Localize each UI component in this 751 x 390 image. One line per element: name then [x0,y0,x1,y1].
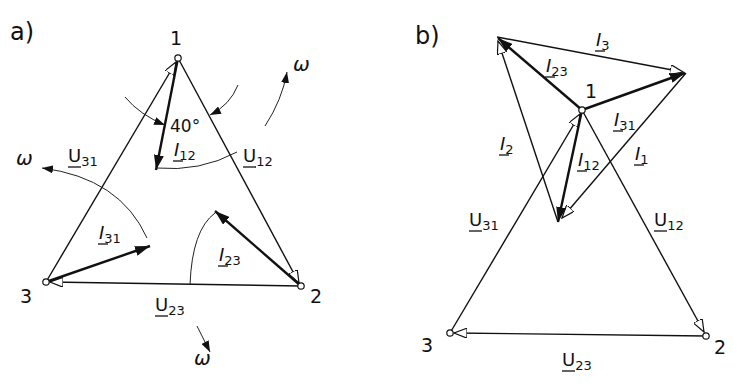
node-1 [175,55,181,61]
label-u12: U12 [243,145,273,169]
svg-text:I23: I23 [219,244,241,268]
rotation-arc-23 [190,213,215,285]
panel-b: b) 1 2 3 I3 I23 I31 [415,22,726,373]
node-2-label: 2 [310,285,322,307]
label-i31: I31 [98,222,121,246]
label-i31: I31 [613,109,636,133]
label-i1: I1 [634,143,649,167]
voltage-phasor-u12 [178,58,299,283]
label-i23: I23 [545,55,568,79]
node-1 [579,107,585,113]
omega-label-left: ω [16,146,33,170]
node-1-label: 1 [585,80,597,102]
current-phasor-i23 [498,38,582,110]
svg-text:U31: U31 [469,209,499,233]
label-i12: I12 [173,139,196,163]
svg-text:I12: I12 [174,139,196,163]
svg-text:U23: U23 [155,294,185,318]
svg-text:U12: U12 [243,145,273,169]
svg-text:U23: U23 [562,349,592,373]
svg-text:I31: I31 [614,109,636,133]
angle-arc-right [210,85,238,115]
label-i23: I23 [218,244,241,268]
omega-label-bottom: ω [194,346,211,370]
angle-label: 40° [170,116,200,136]
node-3-label: 3 [20,285,32,307]
phasor-diagram: a) 1 2 3 40° ω ω ω U31 [0,0,751,390]
rotation-arc-12 [156,152,237,169]
voltage-phasor-u12 [582,110,704,332]
voltage-phasor-u23 [50,282,301,286]
node-2-label: 2 [714,336,726,358]
panel-a-label: a) [10,18,34,46]
node-2 [298,283,304,289]
svg-text:I3: I3 [596,29,610,53]
angle-arc-left [125,97,165,125]
omega-label-top: ω [293,52,310,76]
svg-text:U12: U12 [654,209,684,233]
label-u31: U31 [469,209,499,233]
label-u31: U31 [68,145,98,169]
label-i2: I2 [499,133,514,157]
node-3 [447,330,453,336]
svg-text:I31: I31 [99,222,121,246]
label-u23: U23 [155,294,185,318]
current-phasor-i31 [46,246,150,282]
node-1-label: 1 [170,27,182,49]
current-phasor-i3 [497,37,683,72]
omega-arrow-12 [265,72,287,126]
label-u23: U23 [562,349,592,373]
label-u12: U12 [654,209,684,233]
node-3-label: 3 [421,334,433,356]
svg-text:U31: U31 [68,145,98,169]
panel-b-label: b) [415,22,440,50]
label-i3: I3 [595,29,610,53]
svg-text:I1: I1 [635,143,649,167]
node-3 [43,279,49,285]
voltage-phasor-u23 [454,333,706,336]
svg-text:I23: I23 [546,55,568,79]
node-2 [703,333,709,339]
omega-arrow-31 [42,168,147,238]
label-i12: I12 [577,149,600,173]
svg-text:I2: I2 [500,133,514,157]
current-phasor-i23 [215,211,301,286]
panel-a: a) 1 2 3 40° ω ω ω U31 [10,18,322,370]
svg-text:I12: I12 [578,149,600,173]
